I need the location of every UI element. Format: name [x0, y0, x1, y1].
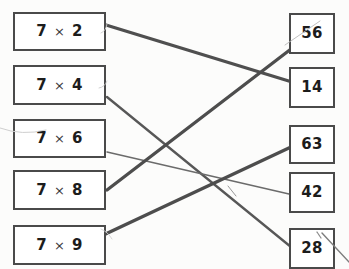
problem-card-4[interactable]: 7 × 8	[13, 170, 106, 210]
factor-a: 7	[36, 78, 47, 93]
problem-expression: 7 × 4	[36, 78, 82, 93]
multiply-icon: ×	[54, 79, 65, 92]
multiply-icon: ×	[54, 239, 65, 252]
answer-value: 28	[301, 241, 322, 256]
problem-expression: 7 × 9	[36, 238, 82, 253]
multiply-icon: ×	[54, 184, 65, 197]
multiply-icon: ×	[54, 132, 65, 145]
problem-card-5[interactable]: 7 × 9	[13, 225, 106, 265]
answer-card-63[interactable]: 63	[289, 125, 335, 164]
answer-card-56[interactable]: 56	[289, 13, 335, 54]
problem-expression: 7 × 8	[36, 183, 82, 198]
answer-value: 63	[301, 137, 322, 152]
connection-line-p3-to-a42[interactable]	[107, 152, 289, 194]
answer-card-28[interactable]: 28	[289, 228, 335, 269]
problem-card-2[interactable]: 7 × 4	[13, 65, 106, 105]
answer-card-14[interactable]: 14	[289, 67, 335, 108]
problem-card-3[interactable]: 7 × 6	[13, 119, 106, 158]
factor-a: 7	[36, 238, 47, 253]
problem-expression: 7 × 6	[36, 131, 82, 146]
factor-b: 4	[72, 78, 83, 93]
answer-value: 14	[301, 80, 322, 95]
multiply-icon: ×	[54, 25, 65, 38]
factor-a: 7	[36, 183, 47, 198]
answer-value: 56	[301, 26, 322, 41]
factor-a: 7	[36, 24, 47, 39]
matching-worksheet: 7 × 2 7 × 4 7 × 6 7 × 8 7 × 9	[0, 0, 349, 269]
factor-b: 9	[72, 238, 83, 253]
answer-card-42[interactable]: 42	[289, 172, 335, 213]
answer-value: 42	[301, 185, 322, 200]
problem-expression: 7 × 2	[36, 24, 82, 39]
connection-line-p1-to-a14[interactable]	[106, 25, 292, 82]
factor-b: 6	[72, 131, 83, 146]
factor-b: 2	[72, 24, 83, 39]
problem-card-1[interactable]: 7 × 2	[13, 12, 106, 51]
factor-a: 7	[36, 131, 47, 146]
factor-b: 8	[72, 183, 83, 198]
